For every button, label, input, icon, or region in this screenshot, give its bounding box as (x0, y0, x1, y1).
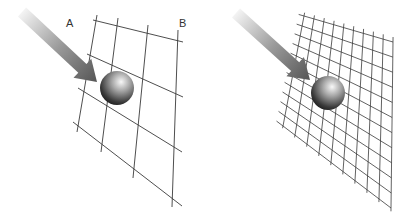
sphere-left (100, 71, 134, 105)
grid-line (367, 32, 374, 193)
force-arrow-a (18, 8, 97, 82)
label-b: B (179, 17, 186, 29)
grid-line (293, 44, 393, 88)
grid-line (93, 20, 183, 42)
grid-line (172, 30, 178, 207)
right-panel (232, 9, 393, 212)
diagram-stage: A B (0, 0, 413, 216)
sphere-icon (311, 76, 345, 110)
left-panel (18, 8, 183, 207)
grid-line (343, 26, 354, 174)
grid-line (391, 37, 393, 211)
diagram-svg (0, 0, 413, 216)
label-a: A (66, 17, 73, 29)
grid-line (133, 25, 148, 178)
grid-line (73, 122, 182, 206)
grid-line (355, 29, 364, 184)
sphere-right (311, 76, 345, 110)
coarse-grid (73, 15, 183, 207)
fine-grid (277, 13, 394, 212)
grid-line (379, 34, 383, 202)
arrow-icon (18, 8, 97, 82)
grid-line (299, 14, 393, 42)
grid-line (295, 34, 393, 72)
sphere-icon (100, 71, 134, 105)
